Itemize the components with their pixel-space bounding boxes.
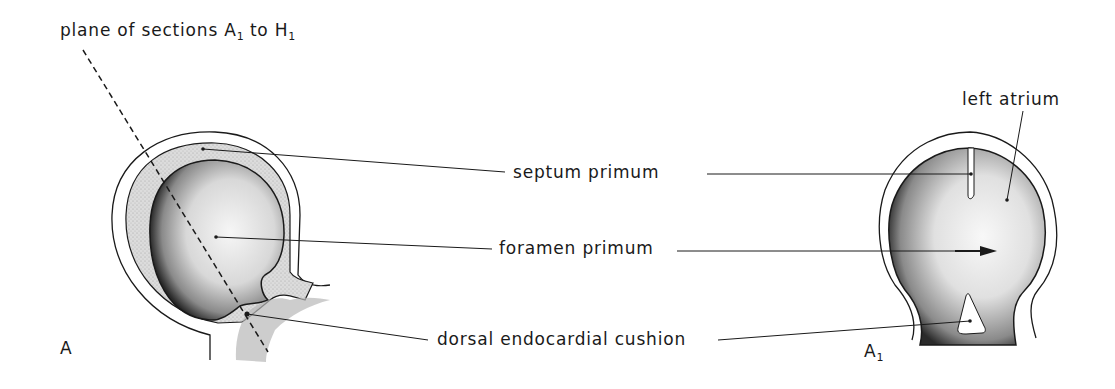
left-atrium-label: left atrium [962, 91, 1060, 108]
panel-label-a: A [60, 340, 72, 357]
dorsal-endocardial-cushion-label: dorsal endocardial cushion [437, 331, 686, 348]
panel-label-a1: A1 [864, 343, 883, 363]
heart-lateral-view [83, 50, 505, 362]
foramen-primum-label: foramen primum [499, 240, 654, 257]
plane-of-sections-label: plane of sections A1 to H1 [60, 22, 295, 42]
septum-primum-label: septum primum [513, 164, 659, 181]
heart-section-a1 [677, 111, 1057, 345]
